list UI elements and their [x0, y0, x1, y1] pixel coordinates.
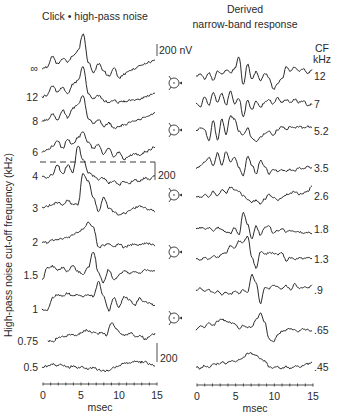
trace-right-2: 5.2 [196, 116, 329, 142]
icons [169, 76, 182, 325]
right-tick-label: 10 [268, 390, 280, 402]
waveform-left-10 [42, 361, 155, 372]
right-time-axis: 051015msec [194, 384, 319, 415]
trace-label-right-7: .9 [314, 284, 323, 296]
right-traces: 1275.23.52.61.81.3.9.65.45 [196, 57, 329, 373]
waveform-left-9 [48, 323, 155, 343]
trace-label-left-5: 3 [32, 202, 38, 214]
head-icon [169, 311, 182, 325]
waveform-right-5 [196, 212, 312, 239]
waveform-right-1 [196, 91, 312, 117]
left-panel-title: Click • high-pass noise [42, 10, 148, 22]
trace-right-0: 12 [196, 57, 326, 90]
trace-label-right-9: .45 [314, 361, 329, 373]
scale-bar-top-label: 200 nV [159, 44, 192, 56]
left-x-axis-label: msec [87, 401, 112, 413]
trace-label-left-10: 0.5 [23, 361, 38, 373]
trace-label-left-1: 12 [26, 91, 38, 103]
waveform-left-1 [42, 67, 155, 104]
trace-label-left-8: 1 [32, 303, 38, 315]
waveform-left-6 [42, 222, 155, 248]
right-tick-label: 0 [194, 390, 200, 402]
trace-left-8: 1 [32, 281, 155, 315]
scale-bar-middle-label: 200 [158, 169, 176, 181]
waveform-right-2 [196, 116, 312, 142]
trace-right-5: 1.8 [196, 212, 329, 239]
trace-label-right-3: 3.5 [314, 162, 329, 174]
trace-label-right-8: .65 [314, 324, 329, 336]
trace-left-9: 0.75 [18, 323, 155, 347]
right-x-axis-label: msec [242, 402, 267, 414]
trace-left-4: 4 [32, 146, 155, 185]
trace-label-left-9: 0.75 [18, 335, 39, 347]
trace-left-7: 1.5 [23, 252, 155, 283]
trace-label-left-6: 2 [32, 236, 38, 248]
trace-right-7: .9 [196, 274, 323, 304]
trace-left-10: 0.5 [23, 361, 155, 373]
trace-label-right-6: 1.3 [314, 253, 329, 265]
head-icon [169, 188, 182, 202]
trace-label-right-2: 5.2 [314, 125, 329, 137]
right-tick-label: 15 [307, 390, 319, 402]
waveform-right-3 [196, 152, 312, 176]
right-panel-title-line1: Derived [227, 3, 263, 15]
right-tick-label: 5 [233, 390, 239, 402]
trace-left-3: 6 [32, 132, 155, 160]
trace-left-6: 2 [32, 222, 155, 248]
y-axis-label: High-pass noise cut-off frequency (kHz) [2, 153, 14, 337]
waveform-right-6 [196, 236, 312, 269]
trace-right-6: 1.3 [196, 236, 329, 269]
waveform-right-7 [196, 274, 312, 304]
trace-label-right-1: 7 [314, 98, 320, 110]
left-tick-label: 15 [151, 389, 163, 401]
trace-left-2: 8 [32, 96, 155, 129]
left-tick-label: 10 [113, 389, 125, 401]
figure: Click • high-pass noise Derived narrow-b… [0, 0, 337, 417]
trace-right-1: 7 [196, 91, 320, 117]
head-icon [169, 245, 182, 259]
time-axes: 051015msec051015msec [40, 383, 319, 415]
left-time-axis: 051015msec [40, 383, 163, 414]
waveform-left-4 [42, 146, 155, 185]
trace-right-9: .45 [196, 353, 329, 373]
waveform-right-4 [196, 186, 312, 204]
head-icon [169, 123, 182, 137]
cf-unit-header: kHz [313, 53, 331, 65]
waveform-right-8 [196, 313, 312, 342]
left-tick-label: 5 [78, 389, 84, 401]
trace-left-0: ∞ [31, 34, 156, 79]
trace-label-left-3: 6 [32, 146, 38, 158]
waveform-left-2 [42, 96, 155, 129]
waveform-left-0 [42, 34, 155, 79]
left-traces: ∞12864321.510.750.5 [18, 34, 155, 373]
head-icon [169, 76, 182, 90]
trace-right-4: 2.6 [196, 186, 329, 204]
right-panel-title-line2: narrow-band response [192, 18, 297, 30]
trace-left-1: 12 [26, 67, 155, 104]
trace-label-left-4: 4 [32, 170, 38, 182]
trace-right-3: 3.5 [196, 152, 329, 176]
scale-bar-bottom-label: 200 [160, 352, 178, 364]
trace-label-right-4: 2.6 [314, 190, 329, 202]
trace-label-left-7: 1.5 [23, 269, 38, 281]
trace-label-right-0: 12 [314, 70, 326, 82]
waveform-right-0 [196, 57, 312, 90]
trace-right-8: .65 [196, 313, 329, 342]
waveform-left-3 [42, 132, 155, 160]
trace-label-left-0: ∞ [31, 62, 39, 74]
left-tick-label: 0 [40, 389, 46, 401]
waveform-left-8 [42, 281, 155, 311]
trace-label-right-5: 1.8 [314, 223, 329, 235]
trace-label-left-2: 8 [32, 115, 38, 127]
waveform-left-7 [42, 252, 155, 283]
waveform-right-9 [196, 353, 312, 370]
